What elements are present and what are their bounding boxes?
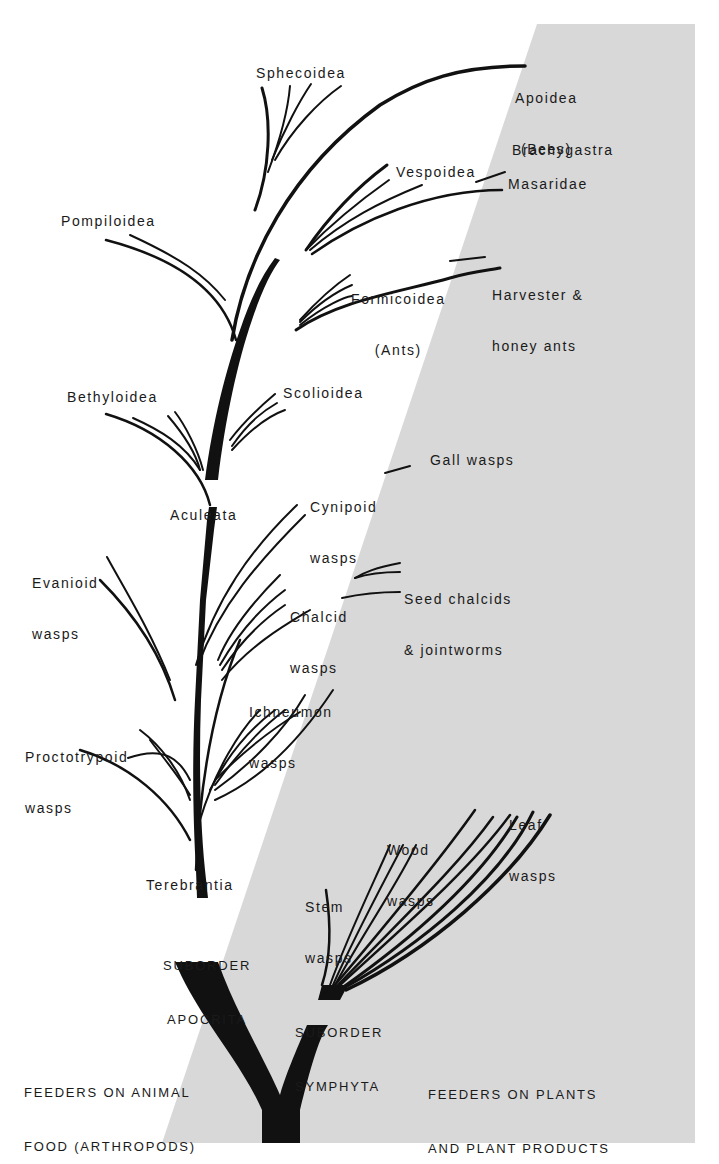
- label-formicoidea: Formicoidea (Ants): [351, 257, 446, 393]
- label-animal-feeders-line2: FOOD (ARTHROPODS): [24, 1138, 196, 1156]
- label-sphecoidea: Sphecoidea: [256, 65, 346, 82]
- label-masaridae: Masaridae: [508, 176, 588, 193]
- label-ichneumon-line1: Ichneumon: [249, 704, 333, 721]
- label-proctotrypoid-line2: wasps: [25, 800, 128, 817]
- label-seed-chalcids: Seed chalcids & jointworms: [404, 557, 512, 693]
- label-apocrita-line2: APOCRITA: [163, 1011, 251, 1029]
- label-animal-feeders: FEEDERS ON ANIMAL FOOD (ARTHROPODS): [24, 1048, 196, 1164]
- label-wood-wasps-line2: wasps: [387, 893, 435, 910]
- label-seed-chalcids-line1: Seed chalcids: [404, 591, 512, 608]
- label-evanioid-line2: wasps: [32, 626, 99, 643]
- label-cynipoid-line1: Cynipoid: [310, 499, 377, 516]
- label-cynipoid-line2: wasps: [310, 550, 377, 567]
- label-scolioidea: Scolioidea: [283, 385, 364, 402]
- label-plant-feeders: FEEDERS ON PLANTS AND PLANT PRODUCTS: [428, 1050, 610, 1164]
- label-proctotrypoid-wasps: Proctotrypoid wasps: [25, 715, 128, 851]
- label-proctotrypoid-line1: Proctotrypoid: [25, 749, 128, 766]
- label-apoidea: Apoidea (Bees): [515, 56, 578, 192]
- label-ichneumon-wasps: Ichneumon wasps: [249, 670, 333, 806]
- evanioid-branch: [100, 557, 175, 700]
- label-harvester-line1: Harvester &: [492, 287, 584, 304]
- label-chalcid-line1: Chalcid: [290, 609, 348, 626]
- label-evanioid-line1: Evanioid: [32, 575, 99, 592]
- label-plant-feeders-line1: FEEDERS ON PLANTS: [428, 1086, 610, 1104]
- pompiloidea-branch: [106, 235, 236, 340]
- label-apoidea-line1: Apoidea: [515, 90, 578, 107]
- hymenoptera-phylogeny-diagram: Apoidea (Bees) Sphecoidea Brachygastra V…: [0, 0, 719, 1164]
- label-wood-wasps-line1: Wood: [387, 842, 435, 859]
- label-formicoidea-line2: (Ants): [351, 342, 446, 359]
- label-bethyloidea: Bethyloidea: [67, 389, 158, 406]
- label-leaf-wasps-line2: wasps: [509, 868, 557, 885]
- label-formicoidea-line1: Formicoidea: [351, 291, 446, 308]
- label-stem-wasps-line2: wasps: [305, 950, 353, 967]
- label-harvester-honey-ants: Harvester & honey ants: [492, 253, 584, 389]
- sphecoidea-branch: [255, 84, 341, 210]
- label-ichneumon-line2: wasps: [249, 755, 333, 772]
- label-stem-wasps-line1: Stem: [305, 899, 353, 916]
- label-aculeata: Aculeata: [170, 507, 237, 524]
- scolioidea-branch: [230, 394, 285, 450]
- label-brachygastra: Brachygastra: [512, 142, 614, 159]
- label-suborder-apocrita: SUBORDER APOCRITA: [163, 921, 251, 1065]
- label-evanioid-wasps: Evanioid wasps: [32, 541, 99, 677]
- label-terebrantia: Terebrantia: [146, 877, 234, 894]
- label-harvester-line2: honey ants: [492, 338, 584, 355]
- label-symphyta-line2: SYMPHYTA: [295, 1078, 383, 1096]
- label-pompiloidea: Pompiloidea: [61, 213, 156, 230]
- label-animal-feeders-line1: FEEDERS ON ANIMAL: [24, 1084, 196, 1102]
- label-leaf-wasps-line1: Leaf: [509, 817, 557, 834]
- label-wood-wasps: Wood wasps: [387, 808, 435, 944]
- label-symphyta-line1: SUBORDER: [295, 1024, 383, 1042]
- label-plant-feeders-line2: AND PLANT PRODUCTS: [428, 1140, 610, 1158]
- label-apocrita-line1: SUBORDER: [163, 957, 251, 975]
- label-suborder-symphyta: SUBORDER SYMPHYTA: [295, 988, 383, 1132]
- label-stem-wasps: Stem wasps: [305, 865, 353, 1001]
- label-leaf-wasps: Leaf wasps: [509, 783, 557, 919]
- label-gall-wasps: Gall wasps: [430, 452, 514, 469]
- bethyloidea-branch: [106, 412, 210, 505]
- label-vespoidea: Vespoidea: [396, 164, 476, 181]
- label-seed-chalcids-line2: & jointworms: [404, 642, 512, 659]
